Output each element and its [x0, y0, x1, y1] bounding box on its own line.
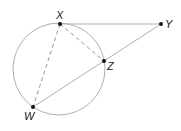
- label-x: X: [55, 9, 64, 21]
- point-z: [102, 59, 106, 63]
- label-z: Z: [106, 60, 115, 72]
- label-y: Y: [165, 18, 173, 30]
- segment-xw: [33, 24, 60, 107]
- point-y: [159, 22, 163, 26]
- label-w: W: [24, 110, 36, 122]
- geometry-diagram: X Y Z W: [0, 0, 181, 131]
- point-w: [31, 105, 35, 109]
- point-x: [58, 22, 62, 26]
